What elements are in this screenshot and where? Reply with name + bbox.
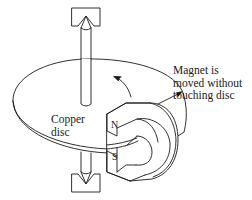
axle-top bbox=[81, 16, 91, 60]
copper-label-line2: disc bbox=[51, 126, 85, 139]
north-pole-label: N bbox=[111, 119, 118, 130]
magnet-label-line2: moved without bbox=[173, 77, 242, 90]
magnet-label-line3: touching disc bbox=[173, 89, 242, 102]
copper-disc-label: Copper disc bbox=[51, 113, 85, 138]
magnet-label: Magnet is moved without touching disc bbox=[173, 64, 242, 102]
horseshoe-magnet bbox=[107, 103, 178, 181]
magnet-label-line1: Magnet is bbox=[173, 64, 242, 77]
copper-label-line1: Copper bbox=[51, 113, 85, 126]
south-pole-label: S bbox=[112, 151, 118, 162]
axle-through-disc bbox=[81, 59, 91, 106]
